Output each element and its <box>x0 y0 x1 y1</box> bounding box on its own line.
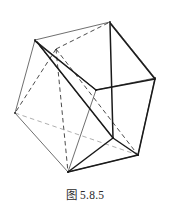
hidden-edge-far-to-right <box>56 49 138 155</box>
inscribed-edge-hub-to-bottomright <box>113 138 138 155</box>
figure-container: 图5.8.5 <box>0 0 170 216</box>
inscribed-edge-mid-to-right <box>96 79 155 90</box>
inscribed-polyhedron-group <box>35 23 155 172</box>
silhouette-edge-top-left <box>35 22 110 40</box>
cube-edge-near-corner-to-bottom <box>68 90 96 172</box>
vertex-dot-hub <box>112 137 114 139</box>
inscribed-edge-topleft-to-mid <box>35 41 96 90</box>
vertex-dot-bottomright <box>137 154 139 156</box>
vertex-dot-left <box>14 112 16 114</box>
figure-caption: 图5.8.5 <box>0 186 170 202</box>
inscribed-edge-top-to-right <box>110 23 155 79</box>
vertex-dots-group <box>14 21 156 173</box>
inscribed-edge-top-down <box>110 24 113 138</box>
vertex-dot-topleft <box>34 39 36 41</box>
vertex-dot-bottom <box>67 171 69 173</box>
vertex-dot-near <box>95 89 97 91</box>
inscribed-edge-topleft-down <box>37 42 113 138</box>
hidden-edge-far-to-top <box>56 22 110 49</box>
silhouette-edge-left <box>15 40 35 113</box>
figure-caption-number: 5.8.5 <box>80 189 105 201</box>
figure-caption-label: 图 <box>66 189 77 201</box>
vertex-dot-top <box>109 21 111 23</box>
cube-hexagon-diagram <box>0 0 170 190</box>
vertex-dot-right <box>154 77 156 79</box>
inscribed-edge-right-down <box>138 79 155 155</box>
